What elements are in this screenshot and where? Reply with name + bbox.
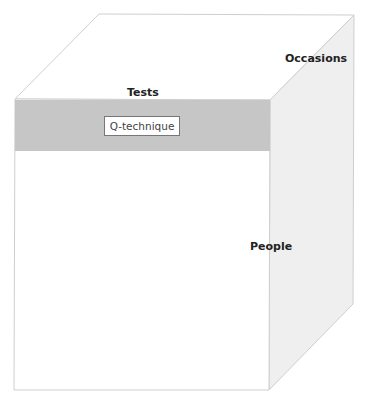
tests-label: Tests bbox=[127, 86, 159, 99]
people-label: People bbox=[250, 240, 292, 253]
q-technique-box: Q-technique bbox=[104, 116, 180, 136]
occasions-label: Occasions bbox=[285, 52, 347, 65]
